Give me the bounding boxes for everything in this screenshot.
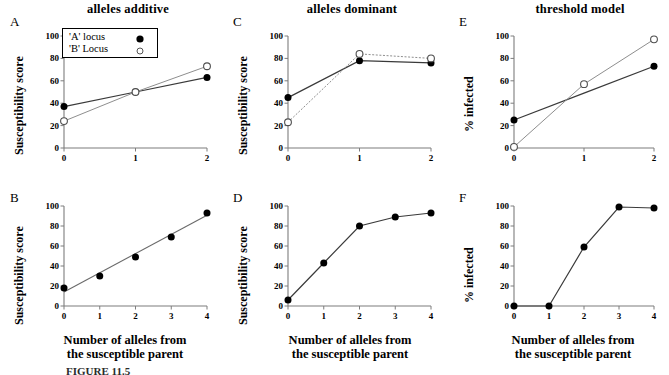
- y-tick-label: 20: [488, 281, 509, 291]
- y-tick-label: 0: [262, 301, 283, 311]
- y-tick-label: 40: [488, 98, 509, 108]
- filled-circle-marker: [428, 210, 435, 217]
- x-tick-label: 1: [574, 153, 594, 163]
- series-line: [288, 54, 431, 122]
- y-tick-label: 100: [262, 31, 283, 41]
- y-axis-title-c: Susceptibility score: [236, 56, 251, 155]
- figure-root: alleles additive alleles dominant thresh…: [0, 0, 669, 375]
- y-tick-label: 80: [488, 53, 509, 63]
- x-tick-label: 2: [197, 153, 217, 163]
- x-tick-label: 1: [314, 311, 334, 321]
- x-tick-label: 4: [421, 311, 441, 321]
- y-tick-label: 0: [38, 143, 59, 153]
- filled-circle-marker: [546, 303, 553, 310]
- x-tick-label: 3: [161, 311, 181, 321]
- y-tick-label: 40: [262, 98, 283, 108]
- filled-circle-marker: [511, 303, 518, 310]
- y-tick-label: 40: [262, 261, 283, 271]
- y-tick-label: 0: [38, 301, 59, 311]
- panel-label-d: D: [233, 190, 242, 206]
- filled-circle-marker: [651, 205, 658, 212]
- x-tick-label: 1: [126, 153, 146, 163]
- x-tick-label: 0: [278, 153, 298, 163]
- filled-circle-icon: [135, 34, 147, 44]
- x-tick-label: 0: [504, 153, 524, 163]
- x-axis-title-d: Number of alleles from the susceptible p…: [255, 333, 445, 361]
- y-axis-title-b: Susceptibility score: [12, 226, 27, 325]
- open-circle-marker: [581, 81, 588, 88]
- open-circle-marker: [356, 51, 363, 58]
- plot-area-c: [262, 30, 437, 170]
- y-tick-label: 40: [38, 261, 59, 271]
- x-tick-label: 3: [609, 311, 629, 321]
- chart-panel-c: [262, 30, 437, 170]
- series-line: [288, 61, 431, 98]
- y-tick-label: 40: [488, 261, 509, 271]
- y-tick-label: 60: [488, 241, 509, 251]
- x-axis-title-f: Number of alleles from the susceptible p…: [478, 333, 668, 361]
- y-tick-label: 80: [38, 221, 59, 231]
- filled-circle-marker: [96, 273, 103, 280]
- y-axis-title-e: % infected: [462, 76, 477, 132]
- x-axis-title-b: Number of alleles from the susceptible p…: [30, 333, 220, 361]
- series-line: [514, 66, 654, 120]
- x-tick-label: 4: [197, 311, 217, 321]
- x-tick-label: 2: [644, 153, 664, 163]
- filled-circle-marker: [511, 117, 518, 124]
- plot-area-f: [488, 200, 660, 328]
- y-tick-label: 0: [488, 143, 509, 153]
- x-tick-label: 2: [126, 311, 146, 321]
- legend-label-b-locus: 'B' Locus: [69, 43, 108, 54]
- filled-circle-marker: [132, 254, 139, 261]
- chart-panel-e: [488, 30, 660, 170]
- series-line: [514, 207, 654, 306]
- y-tick-label: 80: [262, 53, 283, 63]
- column-title-additive: alleles additive: [48, 2, 208, 17]
- y-tick-label: 0: [262, 143, 283, 153]
- x-tick-label: 1: [90, 311, 110, 321]
- plot-area-e: [488, 30, 660, 170]
- legend-box: 'A' locus 'B' Locus: [62, 28, 158, 58]
- filled-circle-marker: [356, 57, 363, 64]
- panel-label-e: E: [459, 14, 467, 30]
- filled-circle-marker: [204, 74, 211, 81]
- x-tick-label: 0: [504, 311, 524, 321]
- legend-label-a-locus: 'A' locus: [69, 31, 105, 42]
- x-tick-label: 0: [278, 311, 298, 321]
- filled-circle-marker: [61, 285, 68, 292]
- y-tick-label: 100: [38, 31, 59, 41]
- x-axis-title-line1: Number of alleles from: [289, 333, 412, 347]
- y-axis-title-a: Susceptibility score: [12, 56, 27, 155]
- x-axis-title-line2: the susceptible parent: [515, 347, 631, 361]
- y-tick-label: 60: [38, 76, 59, 86]
- y-tick-label: 60: [262, 241, 283, 251]
- y-tick-label: 100: [488, 201, 509, 211]
- open-circle-marker: [511, 143, 518, 150]
- x-tick-label: 1: [539, 311, 559, 321]
- y-axis-title-d: Susceptibility score: [236, 226, 251, 325]
- y-tick-label: 60: [262, 76, 283, 86]
- chart-panel-f: [488, 200, 660, 328]
- open-circle-marker: [204, 63, 211, 70]
- panel-label-f: F: [459, 190, 466, 206]
- x-axis-title-line2: the susceptible parent: [292, 347, 408, 361]
- column-title-dominant: alleles dominant: [272, 2, 432, 17]
- y-tick-label: 20: [38, 121, 59, 131]
- x-axis-title-line2: the susceptible parent: [67, 347, 183, 361]
- x-axis-title-line1: Number of alleles from: [64, 333, 187, 347]
- y-tick-label: 80: [488, 221, 509, 231]
- x-tick-label: 0: [54, 311, 74, 321]
- y-tick-label: 20: [262, 281, 283, 291]
- y-tick-label: 60: [488, 76, 509, 86]
- x-tick-label: 3: [385, 311, 405, 321]
- panel-label-a: A: [10, 14, 19, 30]
- x-tick-label: 0: [54, 153, 74, 163]
- column-title-threshold: threshold model: [500, 2, 660, 17]
- plot-area-d: [262, 200, 437, 328]
- y-tick-label: 80: [38, 53, 59, 63]
- y-axis-title-f: % infected: [462, 247, 477, 303]
- y-tick-label: 100: [262, 201, 283, 211]
- x-tick-label: 2: [350, 311, 370, 321]
- filled-circle-marker: [204, 210, 211, 217]
- y-tick-label: 100: [38, 201, 59, 211]
